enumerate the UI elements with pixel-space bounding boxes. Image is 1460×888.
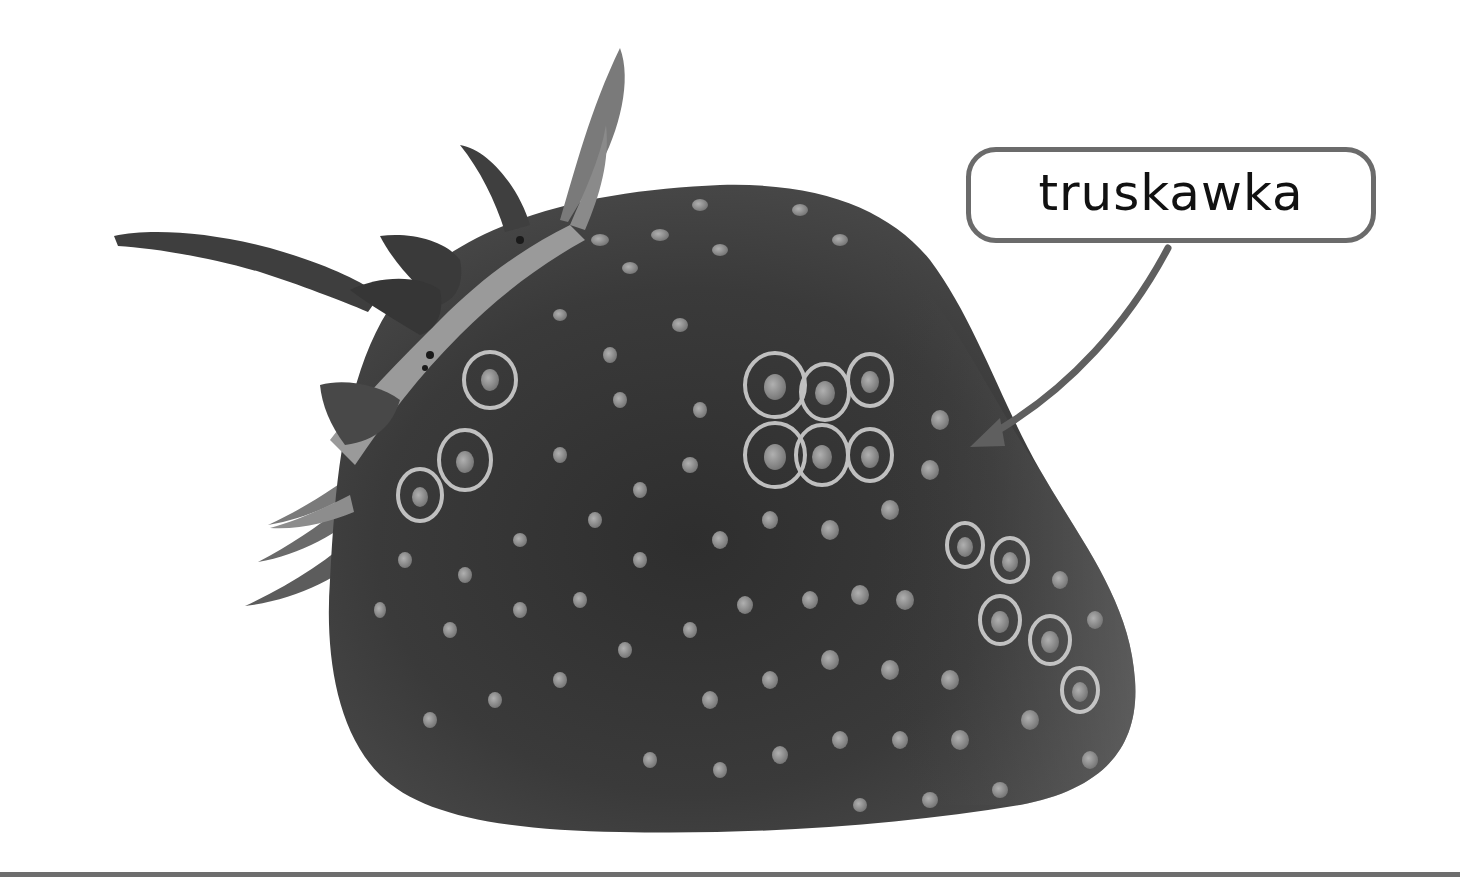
label-text: truskawka — [1038, 168, 1303, 218]
divider-line — [0, 872, 1460, 877]
stem — [114, 232, 380, 312]
page-canvas: truskawka — [0, 0, 1460, 888]
label-bubble: truskawka — [966, 147, 1376, 243]
strawberry-illustration — [0, 0, 1460, 888]
pointer-arrow — [990, 248, 1168, 435]
